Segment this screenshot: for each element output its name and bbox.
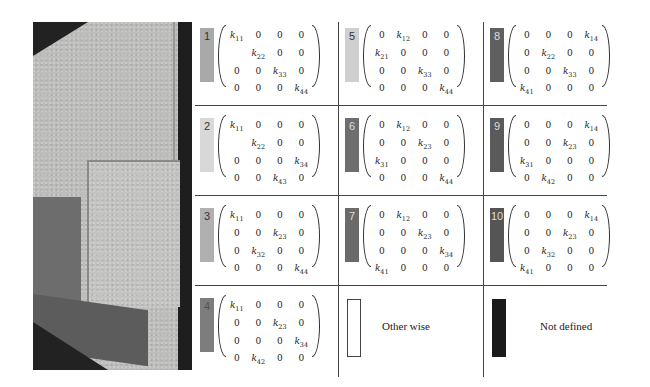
matrix-entry: 0 — [291, 64, 313, 82]
matrix-entry: k33 — [559, 64, 581, 82]
matrix-cell-10: 10000k1400k2300k3200k41000 — [485, 202, 628, 285]
matrix-entry: 0 — [248, 171, 270, 189]
matrix-entry: 0 — [248, 208, 270, 226]
right-paren — [457, 115, 465, 177]
matrix-entry: 0 — [226, 171, 248, 189]
matrix-entry: 0 — [414, 118, 436, 136]
matrix-entry: 0 — [393, 64, 415, 82]
right-paren — [602, 115, 610, 177]
matrix-number: 9 — [490, 120, 504, 132]
matrix-entry: k12 — [393, 28, 415, 46]
matrix-entry: 0 — [581, 154, 603, 172]
left-paren — [218, 205, 226, 267]
left-paren — [363, 25, 371, 87]
matrix-entry: k44 — [291, 81, 313, 99]
matrix-entry: 0 — [559, 118, 581, 136]
matrix-entry: 0 — [393, 136, 415, 154]
matrix-swatch: 3 — [200, 208, 214, 262]
matrix-entry: 0 — [559, 261, 581, 279]
matrix-entry: 0 — [269, 298, 291, 316]
matrix-entry: k34 — [291, 334, 313, 352]
stiffness-matrix: k1100000k230000k340k4200 — [218, 295, 320, 357]
left-paren — [363, 205, 371, 267]
dark-corner-bottom — [33, 322, 108, 370]
right-paren — [312, 115, 320, 177]
matrix-entry: 0 — [516, 171, 538, 189]
matrix-entry: k44 — [436, 81, 458, 99]
matrix-entry: 0 — [291, 226, 313, 244]
matrix-entry: k23 — [559, 136, 581, 154]
matrix-entry: 0 — [516, 136, 538, 154]
matrix-entry: 0 — [414, 208, 436, 226]
matrix-entry: 0 — [269, 46, 291, 64]
matrix-entry: 0 — [436, 136, 458, 154]
stiffness-matrix: k11000k2200000k3400k430 — [218, 115, 320, 177]
matrix-entry: 0 — [581, 136, 603, 154]
legend-swatch-not-defined — [492, 299, 506, 357]
matrix-entry: 0 — [393, 154, 415, 172]
matrix-entry: 0 — [269, 261, 291, 279]
left-paren — [363, 115, 371, 177]
matrix-entry: 0 — [371, 136, 393, 154]
stiffness-matrix: 0k120000k230000k34k41000 — [363, 205, 465, 267]
matrix-entry: 0 — [291, 118, 313, 136]
matrix-entry: 0 — [559, 46, 581, 64]
right-paren — [457, 205, 465, 267]
matrix-entry: k12 — [393, 118, 415, 136]
matrix-entry: 0 — [414, 81, 436, 99]
matrix-entry: k32 — [248, 244, 270, 262]
vertical-seam — [173, 22, 175, 160]
matrix-entry: 0 — [371, 226, 393, 244]
matrix-entry: k23 — [559, 226, 581, 244]
matrix-entry: 0 — [248, 261, 270, 279]
matrix-entry: 0 — [269, 118, 291, 136]
matrix-entry: 0 — [436, 208, 458, 226]
matrix-entry: 0 — [393, 261, 415, 279]
matrix-entry: 0 — [269, 81, 291, 99]
matrix-entry: 0 — [226, 64, 248, 82]
matrix-number: 5 — [345, 30, 359, 42]
matrix-entry: 0 — [538, 226, 560, 244]
matrix-entry: 0 — [226, 226, 248, 244]
matrix-entry: k14 — [581, 118, 603, 136]
grid-divider-v2 — [483, 22, 484, 377]
left-paren — [508, 115, 516, 177]
matrix-cell-8: 8000k140k220000k330k41000 — [485, 22, 628, 105]
matrix-cell-6: 60k120000k230k31000000k44 — [340, 112, 483, 195]
matrix-number: 2 — [200, 120, 214, 132]
matrix-entry: 0 — [538, 81, 560, 99]
matrix-entry: 0 — [248, 316, 270, 334]
matrix-number: 6 — [345, 120, 359, 132]
grid-divider-h2 — [195, 195, 607, 196]
matrix-number: 1 — [200, 30, 214, 42]
matrix-entry: 0 — [516, 64, 538, 82]
matrix-entry: 0 — [538, 28, 560, 46]
matrix-entry: k14 — [581, 208, 603, 226]
matrix-entry: 0 — [559, 81, 581, 99]
matrix-entry: 0 — [581, 171, 603, 189]
matrix-number: 8 — [490, 30, 504, 42]
matrix-entry: 0 — [371, 81, 393, 99]
matrix-entry: 0 — [248, 118, 270, 136]
matrix-entry: 0 — [371, 171, 393, 189]
grid-divider-h1 — [195, 105, 607, 106]
matrix-entry: 0 — [269, 244, 291, 262]
matrix-entry: 0 — [248, 81, 270, 99]
legend-not-defined: Not defined — [485, 292, 645, 375]
connectivity-matrix-grid: 1k11000k220000k330000k44 2k11000k2200000… — [195, 22, 650, 377]
matrix-entry: 0 — [226, 261, 248, 279]
matrix-entry: 0 — [291, 298, 313, 316]
matrix-entry: 0 — [559, 154, 581, 172]
matrix-entry: 0 — [414, 46, 436, 64]
matrix-entry: k11 — [226, 298, 248, 316]
matrix-entry: 0 — [291, 171, 313, 189]
matrix-cell-4: 4k1100000k230000k340k4200 — [195, 292, 338, 375]
matrix-number: 3 — [200, 210, 214, 222]
matrix-cell-1: 1k11000k220000k330000k44 — [195, 22, 338, 105]
matrix-swatch: 4 — [200, 298, 214, 352]
matrix-entry: 0 — [291, 316, 313, 334]
matrix-cell-7: 70k120000k230000k34k41000 — [340, 202, 483, 285]
stiffness-matrix: 000k140k220000k330k41000 — [508, 25, 610, 87]
stiffness-matrix: 000k1400k2300k3200k41000 — [508, 205, 610, 267]
matrix-entry: 0 — [538, 208, 560, 226]
